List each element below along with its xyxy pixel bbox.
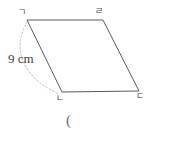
parallelogram-outline	[27, 20, 139, 92]
geometry-figure: ㄱ ㄹ ㄴ ㄷ 9 cm (	[0, 0, 182, 141]
parallelogram-svg	[0, 0, 182, 141]
side-length-label: 9 cm	[8, 52, 34, 66]
vertex-label-bottom-right: ㄷ	[136, 92, 144, 101]
caption-text: (	[66, 112, 71, 128]
vertex-label-top-right: ㄹ	[95, 7, 103, 16]
vertex-label-top-left: ㄱ	[18, 8, 26, 17]
vertex-label-bottom-left: ㄴ	[56, 94, 64, 103]
